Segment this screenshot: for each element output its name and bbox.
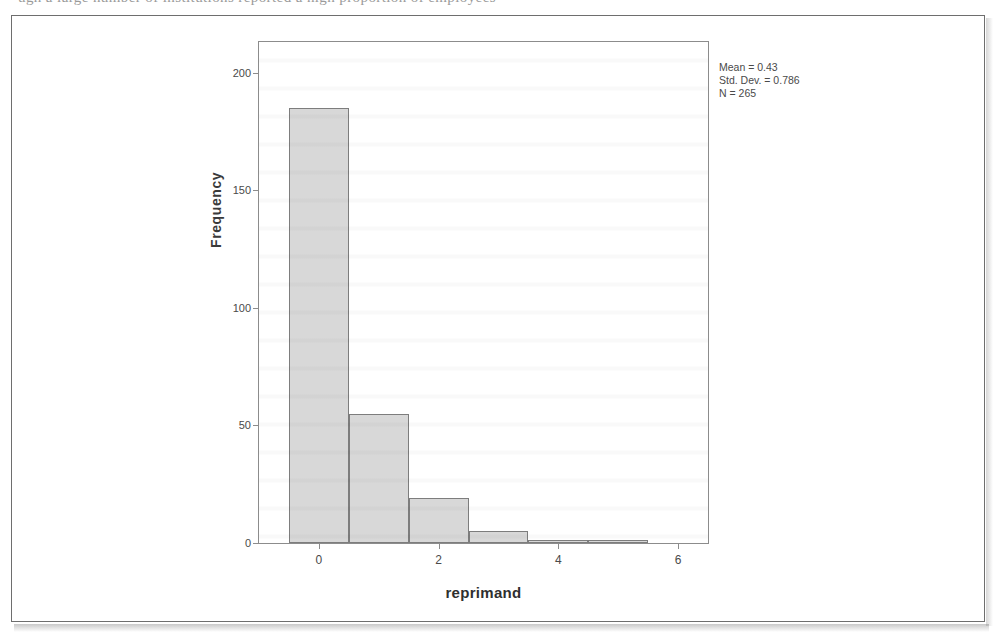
scanned-page: ugh a large number of institutions repor… bbox=[0, 0, 1003, 639]
stat-n: N = 265 bbox=[719, 87, 800, 100]
y-tick-label: 100 bbox=[233, 302, 251, 314]
page-shadow-right bbox=[986, 18, 993, 626]
clipped-header-text: ugh a large number of institutions repor… bbox=[0, 0, 1003, 12]
plot-surface: 0501001502000246 bbox=[259, 42, 708, 543]
histogram-bar bbox=[588, 540, 648, 543]
y-tick-mark bbox=[253, 190, 259, 191]
statistics-annotation: Mean = 0.43 Std. Dev. = 0.786 N = 265 bbox=[719, 61, 800, 100]
y-tick-label: 200 bbox=[233, 67, 251, 79]
x-tick-mark bbox=[558, 543, 559, 549]
y-tick-label: 0 bbox=[245, 537, 251, 549]
y-tick-label: 50 bbox=[239, 419, 251, 431]
figure-frame: 0501001502000246 Frequency reprimand Mea… bbox=[11, 15, 985, 622]
y-tick-label: 150 bbox=[233, 184, 251, 196]
stat-mean: Mean = 0.43 bbox=[719, 61, 800, 74]
x-tick-label: 6 bbox=[675, 553, 682, 567]
y-tick-mark bbox=[253, 73, 259, 74]
x-tick-mark bbox=[678, 543, 679, 549]
histogram-bar bbox=[409, 498, 469, 543]
histogram-bar bbox=[289, 108, 349, 543]
plot-frame: 0501001502000246 bbox=[258, 41, 709, 544]
x-tick-mark bbox=[439, 543, 440, 549]
x-tick-label: 0 bbox=[316, 553, 323, 567]
histogram-chart: 0501001502000246 Frequency reprimand Mea… bbox=[12, 16, 986, 623]
x-tick-label: 2 bbox=[435, 553, 442, 567]
x-tick-mark bbox=[319, 543, 320, 549]
histogram-bar bbox=[349, 414, 409, 543]
y-axis-title: Frequency bbox=[208, 172, 224, 248]
stat-std-dev: Std. Dev. = 0.786 bbox=[719, 74, 800, 87]
y-tick-mark bbox=[253, 425, 259, 426]
histogram-bar bbox=[469, 531, 529, 543]
y-tick-mark bbox=[253, 543, 259, 544]
x-tick-label: 4 bbox=[555, 553, 562, 567]
y-tick-mark bbox=[253, 308, 259, 309]
x-axis-title: reprimand bbox=[258, 584, 709, 601]
page-shadow-bottom bbox=[14, 624, 989, 632]
